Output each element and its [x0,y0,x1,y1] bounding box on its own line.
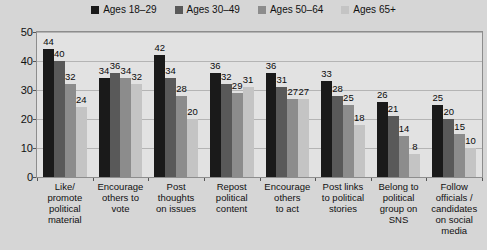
bar[interactable]: 34 [99,78,110,177]
bar[interactable]: 44 [43,49,54,177]
x-tick-mark [148,178,149,181]
bar[interactable]: 28 [176,96,187,177]
bar-value-label: 24 [76,95,87,105]
bar[interactable]: 21 [388,116,399,177]
bar[interactable]: 42 [154,55,165,177]
bar-value-label: 34 [121,66,132,76]
x-axis-labels: Like/promotepoliticalmaterialEncourageot… [37,181,482,236]
legend-swatch-ages-30-49 [175,6,183,14]
x-axis-label: Encourageothersto act [260,181,316,236]
x-axis-label: Followofficials /candidateson socialmedi… [426,181,482,236]
bar[interactable]: 20 [187,119,198,177]
legend-swatch-ages-18-29 [91,6,99,14]
bar-value-label: 34 [99,66,110,76]
bar[interactable]: 31 [243,87,254,177]
legend-item-ages-50-64: Ages 50–64 [258,5,323,15]
bar-group: 25201510 [426,32,482,177]
bar-value-label: 18 [354,113,365,123]
bar-group: 44403224 [37,32,93,177]
bar-group: 33282518 [315,32,371,177]
y-tick-label: 40 [3,56,33,67]
bar[interactable]: 27 [298,99,309,177]
bar[interactable]: 15 [454,134,465,178]
bar-group: 36312727 [260,32,316,177]
x-tick-mark [426,178,427,181]
bar-value-label: 42 [154,43,165,53]
bar-value-label: 36 [266,61,277,71]
bar-value-label: 32 [132,72,143,82]
y-tick-label: 10 [3,143,33,154]
bar-value-label: 34 [165,66,176,76]
bar[interactable]: 24 [76,107,87,177]
bar[interactable]: 28 [332,96,343,177]
legend-swatch-ages-50-64 [258,6,266,14]
legend-label-ages-18-29: Ages 18–29 [103,5,156,15]
bar[interactable]: 18 [354,125,365,177]
x-tick-mark [204,178,205,181]
y-tick-label: 30 [3,85,33,96]
x-axis-label: Repostpoliticalcontent [204,181,260,236]
x-tick-mark [93,178,94,181]
bar-group: 2621148 [371,32,427,177]
legend-item-ages-30-49: Ages 30–49 [175,5,240,15]
bar[interactable]: 36 [210,73,221,177]
bar-value-label: 29 [232,81,243,91]
bar-value-label: 32 [221,72,232,82]
y-tick-label: 20 [3,114,33,125]
bar-value-label: 31 [243,75,254,85]
bar[interactable]: 10 [465,148,476,177]
bar-value-label: 36 [210,61,221,71]
bar[interactable]: 26 [377,102,388,177]
bar-value-label: 27 [298,87,309,97]
bar-value-label: 25 [433,93,444,103]
bar[interactable]: 31 [276,87,287,177]
legend-swatch-ages-65-plus [341,6,349,14]
bar[interactable]: 34 [165,78,176,177]
bar-value-label: 36 [110,61,121,71]
y-tick-label: 50 [3,27,33,38]
bar[interactable]: 36 [110,73,121,177]
bar[interactable]: 8 [409,154,420,177]
x-axis-label: Encourageothers tovote [93,181,149,236]
bar[interactable]: 25 [343,105,354,178]
bar-value-label: 27 [287,87,298,97]
bar-value-label: 21 [388,104,399,114]
bar[interactable]: 32 [65,84,76,177]
bar-group: 34363432 [93,32,149,177]
bar[interactable]: 20 [443,119,454,177]
bar[interactable]: 25 [432,105,443,178]
bar-value-label: 31 [277,75,288,85]
legend-label-ages-65-plus: Ages 65+ [353,5,396,15]
bar-value-label: 40 [54,49,65,59]
bar[interactable]: 34 [120,78,131,177]
x-axis-label: Like/promotepoliticalmaterial [37,181,93,236]
x-tick-mark [37,178,38,181]
y-axis-ticks: 50403020100 [0,31,33,178]
bar-value-label: 28 [332,84,343,94]
x-tick-mark [371,178,372,181]
x-tick-mark [482,178,483,181]
bar-group: 42342820 [148,32,204,177]
bar[interactable]: 29 [232,93,243,177]
bar-value-label: 15 [454,122,465,132]
bar[interactable]: 32 [131,84,142,177]
x-tick-mark [260,178,261,181]
x-tick-mark [315,178,316,181]
legend-item-ages-65-plus: Ages 65+ [341,5,396,15]
bar[interactable]: 40 [54,61,65,177]
bar-value-label: 20 [187,107,198,117]
bar[interactable]: 14 [399,136,410,177]
x-axis-label: Belong topoliticalgroup onSNS [371,181,427,236]
bar-value-label: 28 [176,84,187,94]
bar[interactable]: 32 [221,84,232,177]
x-axis-label: Post linksto politicalstories [315,181,371,236]
bar[interactable]: 36 [266,73,277,177]
bar-value-label: 8 [412,142,417,152]
bar[interactable]: 27 [287,99,298,177]
y-tick-label: 0 [3,172,33,183]
bar-value-label: 33 [321,69,332,79]
bar-value-label: 20 [443,107,454,117]
bar[interactable]: 33 [321,81,332,177]
bar-value-label: 26 [377,90,388,100]
bar-value-label: 44 [43,37,54,47]
